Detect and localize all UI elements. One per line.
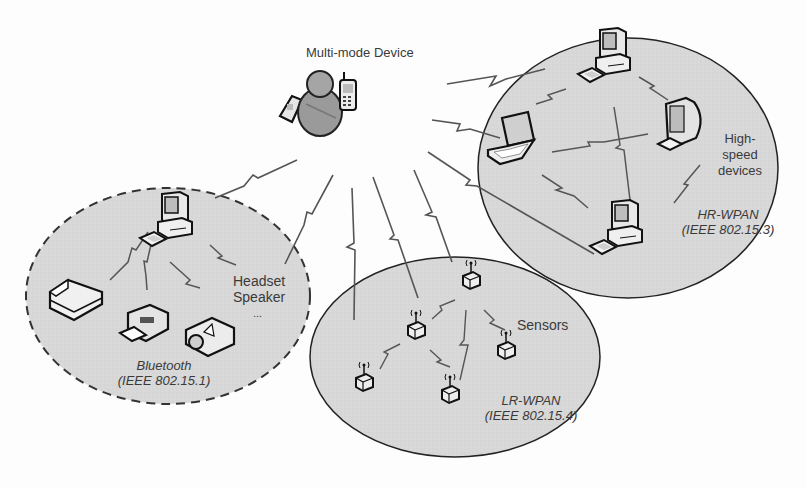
- speaker-label: Speaker: [233, 289, 285, 305]
- center-device-label: Multi-mode Device: [306, 45, 414, 60]
- bluetooth-network-label: Bluetooth (IEEE 802.15.1): [114, 358, 214, 388]
- lr-wpan-area: [310, 257, 600, 457]
- devices-label: devices: [714, 163, 766, 179]
- multi-mode-device-icon: [280, 71, 356, 136]
- ellipsis-label: ...: [233, 305, 285, 321]
- sensors-label: Sensors: [517, 318, 568, 333]
- lr-wpan-name: LR-WPAN: [476, 393, 586, 408]
- bluetooth-standard: (IEEE 802.15.1): [114, 373, 214, 388]
- headset-label: Headset: [233, 273, 285, 289]
- lr-wpan-standard: (IEEE 802.15.4): [476, 408, 586, 423]
- user-icon: [298, 71, 342, 136]
- high-label: High-: [714, 131, 766, 147]
- diagram-canvas: [0, 0, 807, 488]
- speed-label: speed: [714, 147, 766, 163]
- high-speed-devices-label: High- speed devices: [714, 131, 766, 179]
- hr-wpan-name: HR-WPAN: [672, 207, 784, 222]
- wpan-diagram: Multi-mode Device Headset Speaker ... Bl…: [0, 0, 807, 488]
- bluetooth-name: Bluetooth: [114, 358, 214, 373]
- lr-wpan-network-label: LR-WPAN (IEEE 802.15.4): [476, 393, 586, 423]
- hr-wpan-network-label: HR-WPAN (IEEE 802.15.3): [672, 207, 784, 237]
- bluetooth-extra-labels: Headset Speaker ...: [233, 273, 285, 321]
- hr-wpan-standard: (IEEE 802.15.3): [672, 222, 784, 237]
- mobile-phone-icon: [340, 72, 356, 110]
